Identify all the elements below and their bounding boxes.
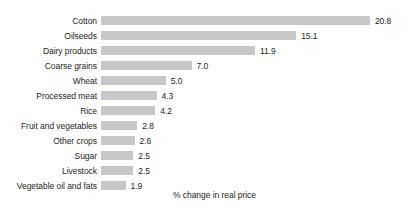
bar-row: Sugar 2.5 [0,148,411,163]
category-label: Livestock [0,166,97,176]
category-label: Cotton [0,16,97,26]
bar-row: Livestock 2.5 [0,163,411,178]
bar-row: Dairy products 11.9 [0,43,411,58]
bar-row: Processed meat 4.3 [0,88,411,103]
bar [101,166,133,175]
bar-chart: Cotton 20.8 Oilseeds 15.1 Dairy products… [0,0,411,208]
bar-track: 2.5 [97,163,411,178]
value-label: 2.8 [142,121,154,131]
category-label: Vegetable oil and fats [0,181,97,191]
value-label: 15.1 [301,31,317,41]
bar [101,91,157,100]
value-label: 1.9 [131,181,143,191]
bar [101,136,135,145]
value-label: 4.3 [162,91,174,101]
bar [101,181,126,190]
value-label: 5.0 [171,76,183,86]
bar-row: Other crops 2.6 [0,133,411,148]
bar [101,106,155,115]
bar-row: Fruit and vegetables 2.8 [0,118,411,133]
bar-track: 2.5 [97,148,411,163]
category-label: Other crops [0,136,97,146]
bar-track: 11.9 [97,43,411,58]
bar-track: 20.8 [97,13,411,28]
bar [101,46,255,55]
x-axis-title: % change in real price [0,190,411,200]
value-label: 4.2 [160,106,172,116]
bar-track: 15.1 [97,28,411,43]
category-label: Oilseeds [0,31,97,41]
bar-row: Oilseeds 15.1 [0,28,411,43]
bar [101,121,137,130]
category-label: Sugar [0,151,97,161]
bar-track: 7.0 [97,58,411,73]
bar-track: 4.3 [97,88,411,103]
bar-row: Rice 4.2 [0,103,411,118]
bar [101,151,133,160]
category-label: Rice [0,106,97,116]
value-label: 11.9 [260,46,276,56]
bar-track: 5.0 [97,73,411,88]
bar [101,31,296,40]
bar-track: 4.2 [97,103,411,118]
value-label: 7.0 [197,61,209,71]
bar-row: Wheat 5.0 [0,73,411,88]
bar [101,16,370,25]
value-label: 2.5 [138,166,150,176]
chart-plot-area: Cotton 20.8 Oilseeds 15.1 Dairy products… [0,13,411,193]
bar-track: 2.6 [97,133,411,148]
category-label: Dairy products [0,46,97,56]
value-label: 2.6 [140,136,152,146]
bar [101,61,192,70]
category-label: Wheat [0,76,97,86]
bar [101,76,166,85]
value-label: 20.8 [375,16,391,26]
category-label: Fruit and vegetables [0,121,97,131]
category-label: Processed meat [0,91,97,101]
value-label: 2.5 [138,151,150,161]
bar-track: 2.8 [97,118,411,133]
bar-row: Coarse grains 7.0 [0,58,411,73]
bar-row: Cotton 20.8 [0,13,411,28]
category-label: Coarse grains [0,61,97,71]
